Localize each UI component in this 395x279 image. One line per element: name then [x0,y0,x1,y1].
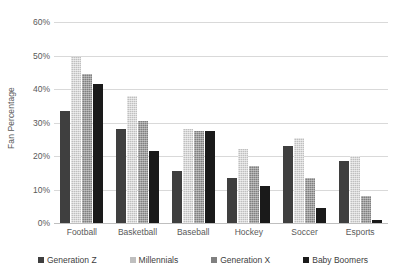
legend-item[interactable]: Generation Z [38,255,97,265]
bar-group [110,22,166,223]
bar[interactable] [361,196,371,223]
x-axis-label: Football [54,226,110,242]
legend-swatch-icon [303,257,309,263]
y-tick-label: 0% [6,219,50,228]
y-tick-label: 50% [6,51,50,60]
x-axis-label: Baseball [165,226,221,242]
legend-item[interactable]: Generation X [211,255,270,265]
legend-label: Generation X [220,255,270,265]
legend-item[interactable]: Millennials [130,255,179,265]
bar[interactable] [260,186,270,223]
y-tick-label: 10% [6,185,50,194]
x-axis-label: Hockey [221,226,277,242]
bar[interactable] [194,131,204,223]
chart-legend: Generation ZMillennialsGeneration XBaby … [38,252,368,268]
legend-swatch-icon [38,257,44,263]
y-tick-label: 20% [6,152,50,161]
bar[interactable] [93,84,103,223]
x-axis-label: Soccer [277,226,333,242]
bar[interactable] [82,74,92,223]
x-axis-label: Basketball [110,226,166,242]
legend-label: Millennials [139,255,179,265]
bar[interactable] [294,138,304,223]
bar[interactable] [116,129,126,223]
gridline [54,223,388,224]
bar[interactable] [350,156,360,223]
bar[interactable] [172,171,182,223]
bar-group [332,22,388,223]
bar[interactable] [71,57,81,223]
bar[interactable] [205,131,215,223]
bar[interactable] [305,178,315,223]
y-axis-ticks: 60%50%40%30%20%10%0% [0,22,50,223]
bar[interactable] [283,146,293,223]
bar[interactable] [316,208,326,223]
plot-area [54,22,388,223]
legend-swatch-icon [130,257,136,263]
bar[interactable] [127,96,137,223]
bar-group [54,22,110,223]
bar-group [277,22,333,223]
y-tick-label: 60% [6,18,50,27]
bar[interactable] [60,111,70,223]
legend-item[interactable]: Baby Boomers [303,255,368,265]
legend-swatch-icon [211,257,217,263]
bar[interactable] [249,166,259,223]
bar-chart: Fan Percentage 60%50%40%30%20%10%0% Foot… [0,0,395,279]
y-tick-label: 30% [6,118,50,127]
bar[interactable] [183,129,193,223]
bar[interactable] [227,178,237,223]
x-axis-label: Esports [332,226,388,242]
bar[interactable] [238,149,248,223]
bars-layer [54,22,388,223]
legend-label: Baby Boomers [312,255,368,265]
bar-group [221,22,277,223]
x-axis-labels: FootballBasketballBaseballHockeySoccerEs… [54,226,388,242]
bar[interactable] [372,220,382,223]
bar[interactable] [339,161,349,223]
bar-group [165,22,221,223]
y-tick-label: 40% [6,85,50,94]
bar[interactable] [149,151,159,223]
legend-label: Generation Z [47,255,97,265]
bar[interactable] [138,121,148,223]
